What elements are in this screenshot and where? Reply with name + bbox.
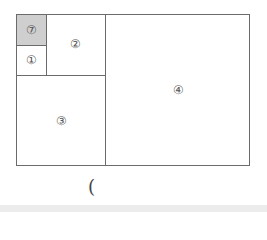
- answer-paren: (: [88, 176, 95, 197]
- region-1-label: ①: [26, 54, 37, 66]
- region-4-label: ④: [173, 84, 184, 96]
- region-7-label: ⑦: [26, 24, 37, 36]
- bottom-band: [0, 205, 267, 212]
- region-2-label: ②: [70, 38, 81, 50]
- region-3-label: ③: [56, 115, 67, 127]
